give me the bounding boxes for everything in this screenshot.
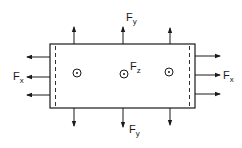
label-main: F: [126, 11, 133, 23]
label-fz-center: Fz: [130, 61, 141, 75]
out-of-plane-symbols: [73, 68, 173, 78]
label-main: F: [13, 70, 20, 82]
bottom-force-arrows: [74, 108, 170, 127]
label-sub: x: [20, 76, 24, 85]
left-force-arrows: [27, 57, 50, 95]
circle-dot-icon: [73, 69, 81, 77]
label-sub: y: [133, 17, 137, 26]
label-main: F: [223, 69, 230, 81]
label-fx-right: Fx: [223, 70, 234, 84]
circle-dot-icon: [165, 68, 173, 76]
circle-dot-icon: [120, 70, 128, 78]
plate-force-diagram: [0, 0, 242, 148]
label-fy-top: Fy: [126, 12, 137, 26]
label-fy-bottom: Fy: [129, 124, 140, 138]
label-sub: z: [137, 66, 141, 75]
label-main: F: [130, 60, 137, 72]
label-sub: x: [230, 75, 234, 84]
label-sub: y: [136, 129, 140, 138]
label-fx-left: Fx: [13, 71, 24, 85]
plate-outline: [50, 44, 195, 108]
label-main: F: [129, 123, 136, 135]
top-force-arrows: [74, 27, 170, 44]
right-force-arrows: [195, 56, 220, 94]
